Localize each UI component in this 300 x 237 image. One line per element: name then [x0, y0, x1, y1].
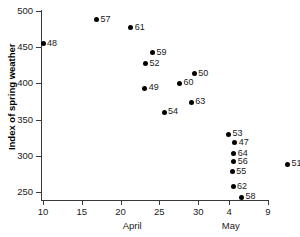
y-tick-mark [36, 47, 41, 48]
x-axis-line [41, 200, 269, 201]
y-tick-label: 450 [0, 42, 33, 52]
y-tick-label: 400 [0, 78, 33, 88]
data-point-label: 63 [195, 97, 205, 106]
y-tick-mark [36, 11, 41, 12]
data-point [142, 86, 147, 91]
data-point-label: 61 [135, 23, 145, 32]
data-point-label: 57 [101, 15, 111, 24]
data-point-label: 56 [238, 157, 248, 166]
x-tick-label: 10 [23, 207, 63, 217]
y-tick-mark [36, 156, 41, 157]
y-tick-label: 500 [0, 6, 33, 16]
data-point-label: 55 [236, 167, 246, 176]
data-point-label: 50 [198, 69, 208, 78]
x-tick-mark [43, 200, 44, 205]
data-point-label: 58 [246, 192, 256, 201]
data-point [232, 140, 237, 145]
data-point-label: 49 [149, 83, 159, 92]
x-tick-mark [121, 200, 122, 205]
data-point [231, 151, 236, 156]
y-tick-label: 350 [0, 115, 33, 125]
x-tick-mark [82, 200, 83, 205]
data-point [231, 184, 236, 189]
x-tick-label: 4 [209, 207, 249, 217]
y-tick-label: 300 [0, 151, 33, 161]
data-point [41, 41, 46, 46]
data-point-label: 48 [47, 39, 57, 48]
x-axis-month-label: April [92, 221, 172, 231]
x-tick-mark [198, 200, 199, 205]
data-point [230, 169, 235, 174]
data-point [189, 100, 194, 105]
y-tick-mark [36, 192, 41, 193]
x-tick-label: 20 [101, 207, 141, 217]
data-point-label: 47 [239, 138, 249, 147]
x-tick-label: 9 [248, 207, 288, 217]
x-tick-mark [159, 200, 160, 205]
data-point [231, 159, 236, 164]
data-point-label: 51 [291, 159, 300, 168]
x-tick-label: 15 [62, 207, 102, 217]
data-point [226, 132, 231, 137]
data-point [150, 50, 155, 55]
data-point-label: 52 [149, 59, 159, 68]
data-point-label: 54 [168, 107, 178, 116]
data-point [143, 61, 148, 66]
data-point [239, 195, 244, 200]
data-point [128, 25, 133, 30]
data-point [177, 81, 182, 86]
y-axis-line [41, 10, 42, 201]
data-point-label: 60 [184, 78, 194, 87]
data-point-label: 59 [156, 48, 166, 57]
data-point [162, 110, 167, 115]
data-point [285, 162, 290, 167]
data-point-label: 62 [237, 182, 247, 191]
scatter-plot-figure: Index of spring weather 5004504003503002… [0, 0, 300, 237]
y-tick-mark [36, 120, 41, 121]
y-tick-label: 250 [0, 187, 33, 197]
data-point [94, 17, 99, 22]
data-point [192, 71, 197, 76]
x-axis-month-label: May [191, 221, 271, 231]
x-tick-mark [229, 200, 230, 205]
y-tick-mark [36, 83, 41, 84]
x-tick-label: 25 [139, 207, 179, 217]
x-tick-mark [268, 200, 269, 205]
